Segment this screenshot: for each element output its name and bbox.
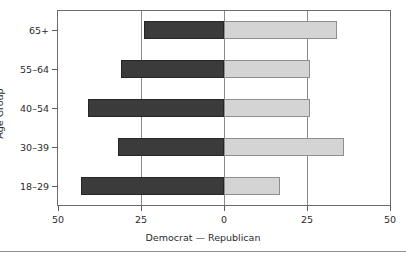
bar-democrat-65+[interactable] (144, 21, 224, 39)
footer-divider (0, 251, 406, 252)
x-tick-label: 0 (221, 214, 227, 225)
x-tick-mark (58, 206, 59, 211)
plot-area (57, 10, 391, 206)
bar-republican-1829[interactable] (224, 177, 280, 195)
x-tick-label: 25 (135, 214, 147, 225)
bar-republican-65+[interactable] (224, 21, 337, 39)
x-tick-mark (141, 206, 142, 211)
bar-row (58, 166, 390, 205)
bar-republican-3039[interactable] (224, 138, 344, 156)
bar-row (58, 11, 390, 50)
bar-row (58, 127, 390, 166)
bar-row (58, 50, 390, 89)
bar-row (58, 89, 390, 128)
y-tick-mark (52, 186, 57, 187)
y-tick-label: 65+ (29, 25, 49, 36)
y-tick-label: 40–54 (20, 103, 49, 114)
y-tick-mark (52, 69, 57, 70)
x-tick-label: 25 (301, 214, 313, 225)
y-tick-mark (52, 147, 57, 148)
bar-democrat-5564[interactable] (121, 60, 224, 78)
x-tick-mark (224, 206, 225, 211)
bar-democrat-1829[interactable] (81, 177, 224, 195)
chart-figure: Age Group Democrat — Republican 65+55–64… (0, 0, 406, 260)
x-tick-label: 50 (52, 214, 64, 225)
x-axis-title: Democrat — Republican (0, 232, 406, 243)
y-tick-label: 30–39 (20, 141, 49, 152)
x-tick-mark (390, 206, 391, 211)
y-tick-mark (52, 108, 57, 109)
bar-democrat-3039[interactable] (118, 138, 224, 156)
y-tick-label: 18–29 (20, 180, 49, 191)
bar-republican-5564[interactable] (224, 60, 310, 78)
bar-republican-4054[interactable] (224, 99, 310, 117)
x-tick-label: 50 (384, 214, 396, 225)
y-tick-mark (52, 30, 57, 31)
x-tick-mark (307, 206, 308, 211)
y-tick-label: 55–64 (20, 64, 49, 75)
y-axis-title: Age Group (0, 88, 5, 138)
bar-democrat-4054[interactable] (88, 99, 224, 117)
